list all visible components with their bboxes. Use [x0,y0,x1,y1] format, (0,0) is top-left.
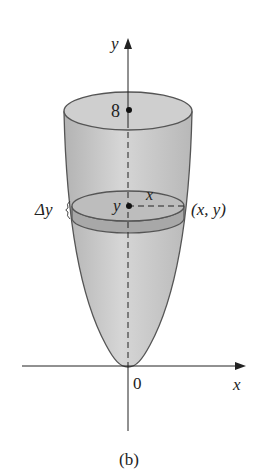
origin-label: 0 [133,374,142,393]
y-axis-label: y [109,34,119,53]
paraboloid-body [64,112,192,367]
x-axis-arrow-icon [235,362,246,370]
top-marker-label: 8 [111,101,120,121]
solid-of-revolution-diagram: y 8 Δy y x (x, y) 0 x (b) [0,0,254,474]
delta-y-label: Δy [34,200,53,219]
x-axis-label: x [232,375,241,394]
slice-height-label: y [111,196,121,215]
point-8 [126,107,132,113]
figure-caption: (b) [119,450,139,469]
point-label: (x, y) [191,200,226,219]
point-y [126,203,132,209]
radius-label: x [145,186,153,203]
y-axis-arrow-icon [124,38,132,49]
